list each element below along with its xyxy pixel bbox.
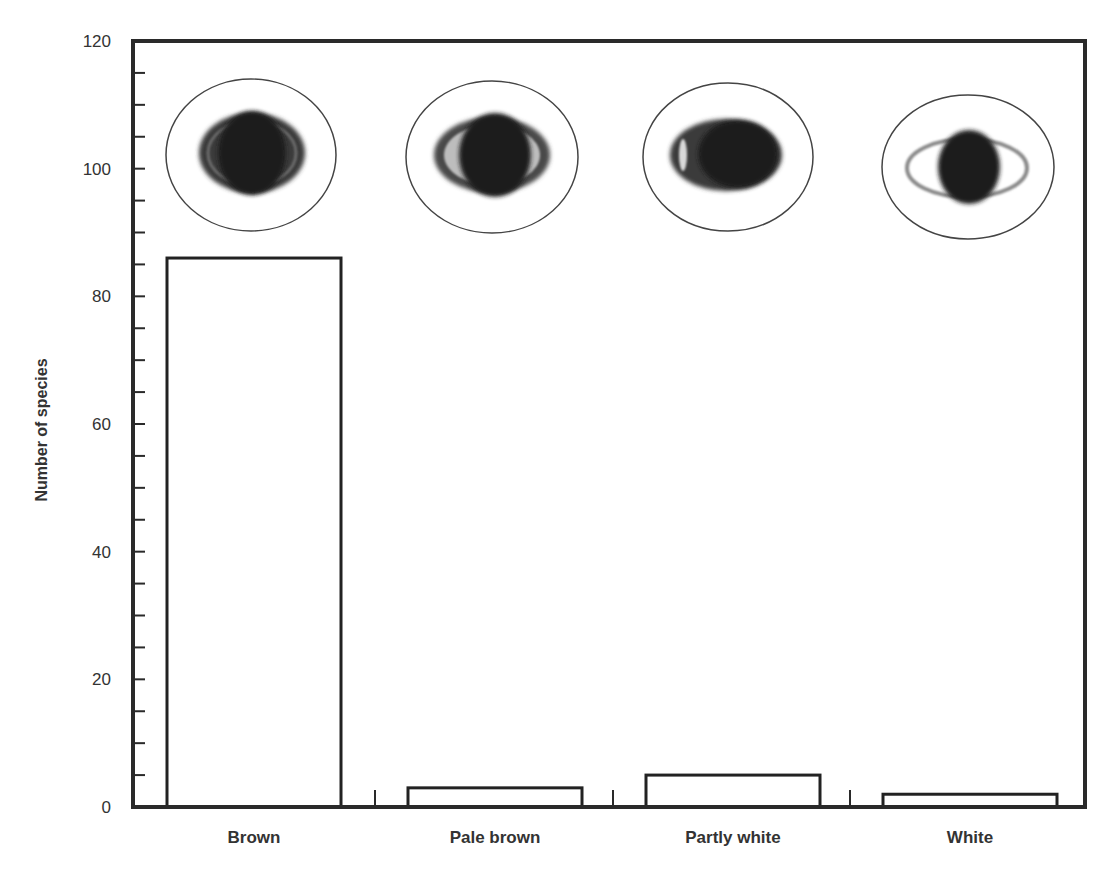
x-category-label: Brown bbox=[228, 828, 281, 847]
y-axis-title: Number of species bbox=[33, 358, 50, 501]
y-tick-label: 80 bbox=[92, 287, 111, 306]
y-tick-label: 20 bbox=[92, 670, 111, 689]
bars bbox=[167, 258, 1057, 807]
x-axis-category-labels: BrownPale brownPartly whiteWhite bbox=[228, 828, 994, 847]
y-tick-label: 120 bbox=[83, 32, 111, 51]
eye-iris-pale-brown-icon bbox=[406, 81, 578, 233]
eye-iris-white-icon bbox=[882, 95, 1054, 239]
bar-partly-white bbox=[646, 775, 820, 807]
eye-iris-brown-icon bbox=[166, 79, 336, 231]
y-tick-label: 40 bbox=[92, 543, 111, 562]
x-category-label: Pale brown bbox=[450, 828, 541, 847]
bar-brown bbox=[167, 258, 341, 807]
bar-pale-brown bbox=[408, 788, 582, 807]
y-tick-label: 100 bbox=[83, 160, 111, 179]
y-tick-label: 0 bbox=[102, 798, 111, 817]
eye-iris-partly-white-icon bbox=[643, 83, 813, 231]
x-category-label: Partly white bbox=[685, 828, 780, 847]
bar-chart: 020406080100120 Number of species BrownP… bbox=[0, 0, 1112, 879]
x-category-label: White bbox=[947, 828, 993, 847]
y-axis-tick-labels: 020406080100120 bbox=[83, 32, 111, 817]
y-tick-label: 60 bbox=[92, 415, 111, 434]
